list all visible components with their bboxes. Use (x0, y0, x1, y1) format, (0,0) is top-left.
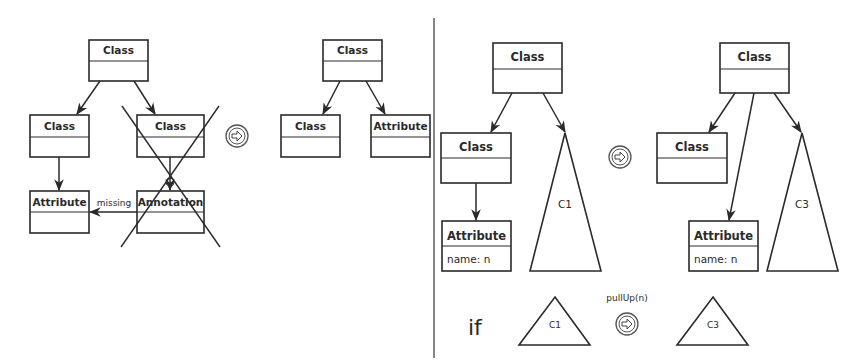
attribute-box: Attribute name: n (442, 221, 511, 271)
attribute-box: Attribute name: n (689, 221, 758, 271)
subtree-label: C3 (795, 198, 809, 210)
operation-label: pullUp(n) (606, 293, 647, 303)
class-title: Class (103, 44, 134, 56)
edge-root-to-class (709, 93, 735, 132)
missing-label: missing (97, 198, 132, 208)
subtree-triangle: C1 (530, 133, 601, 271)
subtree-label: C3 (707, 320, 719, 330)
class-title: Class (738, 50, 772, 64)
right-before-diagram: Class Class Attribute name: n C1 (441, 43, 601, 271)
class-box-root: Class (720, 43, 789, 93)
condition-row: if C1 pullUp(n) C3 (468, 293, 748, 345)
class-title: Class (459, 140, 493, 154)
class-box-root: Class (89, 40, 148, 81)
class-box-child: Class (441, 133, 511, 183)
class-title: Class (675, 140, 709, 154)
edge-root-to-subtree (543, 93, 565, 132)
transform-arrow-icon (226, 125, 248, 147)
attribute-title: Attribute (447, 229, 506, 243)
class-title: Class (44, 120, 75, 132)
annotation-box-removed: Annotation (137, 191, 204, 233)
class-title: Class (155, 120, 186, 132)
subtree-label: C1 (558, 198, 572, 210)
attribute-title: Attribute (694, 229, 753, 243)
attribute-field: name: n (694, 253, 737, 265)
subtree-triangle-small: C3 (677, 297, 748, 345)
attribute-field: name: n (447, 253, 490, 265)
transform-arrow-icon (609, 146, 631, 168)
diagram-canvas: Class Class Class Attribute Annotation (0, 0, 865, 364)
attribute-title: Attribute (373, 120, 427, 132)
subtree-label: C1 (549, 320, 561, 330)
subtree-triangle: C3 (767, 133, 838, 271)
class-box-root: Class (323, 40, 382, 81)
class-title: Class (511, 50, 545, 64)
class-box-right-removed: Class (137, 115, 204, 157)
left-before-diagram: Class Class Class Attribute Annotation (30, 40, 220, 247)
class-box-left: Class (30, 115, 89, 157)
class-box-root: Class (493, 43, 562, 93)
edge-root-to-left (323, 81, 340, 114)
transform-arrow-icon (616, 313, 638, 335)
edge-root-to-attribute (366, 81, 385, 114)
if-keyword: if (468, 315, 483, 340)
edge-root-to-class (491, 93, 512, 132)
subtree-triangle-small: C1 (519, 297, 590, 345)
class-box-child: Class (657, 133, 727, 183)
edge-root-to-attribute (729, 93, 754, 220)
class-title: Class (337, 44, 368, 56)
edge-root-to-left (77, 81, 100, 114)
right-after-diagram: Class Class Attribute name: n C3 (657, 43, 838, 271)
class-title: Class (295, 120, 326, 132)
attribute-box: Attribute (371, 115, 430, 157)
left-after-diagram: Class Class Attribute (281, 40, 430, 157)
annotation-title: Annotation (138, 196, 204, 208)
attribute-box: Attribute (30, 191, 89, 233)
attribute-title: Attribute (32, 196, 86, 208)
class-box-left: Class (281, 115, 340, 157)
edge-root-to-right (134, 81, 155, 114)
edge-root-to-subtree (774, 93, 801, 132)
